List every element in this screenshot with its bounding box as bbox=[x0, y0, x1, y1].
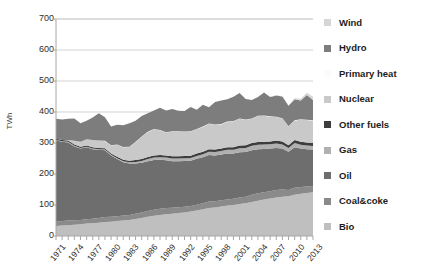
legend-item-bio[interactable]: Bio bbox=[324, 220, 354, 233]
legend-swatch-icon bbox=[324, 172, 331, 179]
legend-item-oil[interactable]: Oil bbox=[324, 169, 352, 182]
legend-swatch-icon bbox=[324, 45, 331, 52]
legend-item-other-fuels[interactable]: Other fuels bbox=[324, 118, 389, 131]
legend-item-wind[interactable]: Wind bbox=[324, 16, 362, 29]
legend-item-label: Primary heat bbox=[339, 69, 397, 79]
legend-swatch-icon bbox=[324, 96, 331, 103]
legend-swatch-icon bbox=[324, 223, 331, 230]
x-axis-tick-labels: 1971197419771980198319861989199219951998… bbox=[0, 0, 340, 275]
legend-swatch-icon bbox=[324, 19, 331, 26]
legend-item-coal-coke[interactable]: Coal&coke bbox=[324, 195, 388, 208]
legend-item-label: Wind bbox=[339, 18, 362, 28]
legend-item-label: Other fuels bbox=[339, 120, 389, 130]
legend-item-label: Nuclear bbox=[339, 94, 374, 104]
legend-item-gas[interactable]: Gas bbox=[324, 144, 357, 157]
legend-item-label: Oil bbox=[339, 171, 352, 181]
legend-item-label: Bio bbox=[339, 222, 354, 232]
legend-swatch-icon bbox=[324, 198, 331, 205]
legend-item-label: Hydro bbox=[339, 43, 366, 53]
legend-item-nuclear[interactable]: Nuclear bbox=[324, 93, 374, 106]
legend-item-hydro[interactable]: Hydro bbox=[324, 42, 366, 55]
legend-item-label: Gas bbox=[339, 145, 357, 155]
legend-swatch-icon bbox=[324, 70, 331, 77]
legend-swatch-icon bbox=[324, 147, 331, 154]
legend-item-primary-heat[interactable]: Primary heat bbox=[324, 67, 397, 80]
chart-legend: WindHydroPrimary heatNuclearOther fuelsG… bbox=[324, 16, 425, 261]
legend-item-label: Coal&coke bbox=[339, 196, 388, 206]
stacked-area-chart: TWh 7006005004003002001000 1971197419771… bbox=[0, 0, 425, 275]
legend-swatch-icon bbox=[324, 121, 331, 128]
